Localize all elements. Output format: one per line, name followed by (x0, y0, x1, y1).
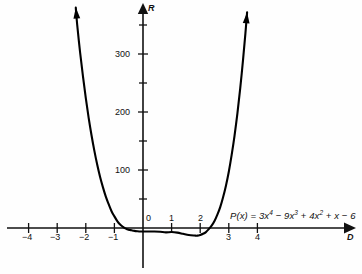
x-tick-label-minus-2: −2 (79, 233, 89, 242)
x-tick-label-minus-3: −3 (50, 233, 60, 242)
equation-annotation: P(x) = 3x4 − 9x3 + 4x2 + x − 6 (230, 210, 356, 221)
eq-op-3: + (298, 210, 309, 221)
x-axis-name-label: D (347, 232, 354, 242)
polynomial-curve (76, 8, 247, 236)
polynomial-graph-figure: 300 200 100 −4 −3 −2 −1 3 4 0 1 2 R D P(… (0, 0, 362, 274)
x-tick-label-minus-4: −4 (22, 233, 32, 242)
x-tick-label-3: 3 (226, 233, 231, 242)
eq-term-2: 9x (284, 210, 294, 221)
x-tick-label-1: 1 (169, 214, 174, 223)
x-tick-label-minus-1: −1 (108, 233, 118, 242)
eq-term-5: 6 (347, 210, 355, 221)
y-tick-label-100: 100 (103, 166, 130, 175)
x-tick-label-4: 4 (255, 233, 260, 242)
y-tick-label-300: 300 (103, 50, 130, 59)
eq-term-4: + x (323, 210, 342, 221)
x-tick-label-0: 0 (146, 214, 151, 223)
eq-prefix: P(x) = 3x (230, 210, 269, 221)
eq-op-2: − (273, 210, 284, 221)
y-axis-name-label: R (148, 3, 155, 13)
x-tick-label-2: 2 (198, 214, 203, 223)
y-axis-arrowhead (138, 3, 148, 14)
eq-term-3: 4x (309, 210, 319, 221)
y-tick-label-200: 200 (103, 108, 130, 117)
